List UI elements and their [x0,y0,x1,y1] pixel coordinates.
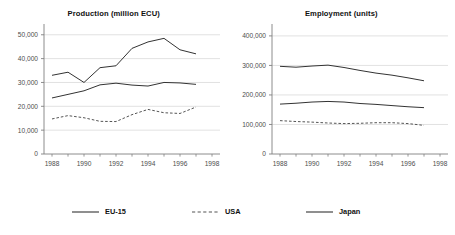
x-tick-label: 1992 [336,160,351,167]
y-tick-label: 200,000 [242,91,266,98]
x-tick-label: 1990 [304,160,319,167]
y-tick-label: 10,000 [18,127,39,134]
y-tick-label: 400,000 [242,32,266,39]
plot-area-employment: 0100,000200,000300,000400,00019881990199… [228,0,455,195]
y-tick-label: 300,000 [242,62,266,69]
chart-panels: Production (million ECU) 010,00020,00030… [0,0,455,195]
series-line-usa [52,107,196,122]
y-tick-label: 100,000 [242,121,266,128]
y-tick-label: 50,000 [18,31,39,38]
legend-item-usa: USA [192,205,241,219]
figure: Production (million ECU) 010,00020,00030… [0,0,455,235]
legend-label-japan: Japan [339,207,360,217]
series-line-japan [280,65,424,81]
x-tick-label: 1992 [109,160,124,167]
x-tick-label: 1988 [272,160,287,167]
series-line-eu-15 [280,101,424,107]
legend-line-icon-usa [192,207,219,217]
x-tick-label: 1998 [205,160,220,167]
legend-label-usa: USA [225,207,241,217]
legend-item-japan: Japan [306,205,360,219]
chart-panel-employment: Employment (units) 0100,000200,000300,00… [228,0,455,195]
chart-legend: EU-15 USA Japan [0,196,455,235]
series-line-eu-15 [52,82,196,98]
legend-line-icon-eu15 [72,207,99,217]
y-tick-label: 20,000 [18,103,39,110]
y-tick-label: 0 [262,150,266,157]
plot-area-production: 010,00020,00030,00040,00050,000198819901… [0,0,228,195]
x-tick-label: 1994 [368,160,383,167]
series-line-japan [52,38,196,82]
legend-item-eu15: EU-15 [72,205,126,219]
legend-line-icon-japan [306,207,333,217]
y-tick-label: 40,000 [18,55,39,62]
x-tick-label: 1998 [432,160,447,167]
y-tick-label: 30,000 [18,79,39,86]
x-tick-label: 1996 [173,160,188,167]
chart-panel-production: Production (million ECU) 010,00020,00030… [0,0,228,195]
y-tick-label: 0 [34,150,38,157]
legend-label-eu15: EU-15 [105,207,126,217]
x-tick-label: 1996 [400,160,415,167]
x-tick-label: 1994 [141,160,156,167]
legend-inner: EU-15 USA Japan [0,196,455,235]
x-tick-label: 1990 [77,160,92,167]
x-tick-label: 1988 [45,160,60,167]
